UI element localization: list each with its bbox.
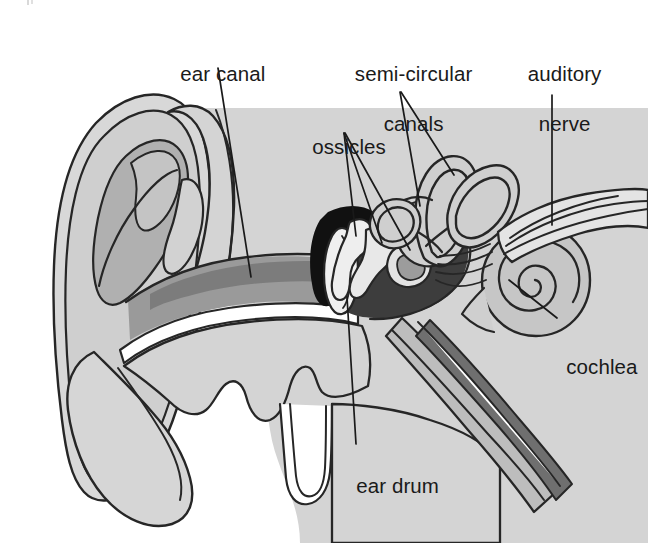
label-ear-drum-text: ear drum (356, 474, 439, 497)
label-ear-canal-text: ear canal (180, 62, 265, 85)
skin-flap-hanging (280, 404, 332, 504)
label-ossicles-text: ossicles (312, 135, 386, 158)
label-ear-canal: ear canal (157, 36, 265, 111)
label-auditory-nerve-line1: auditory (528, 62, 602, 85)
label-cochlea: cochlea (543, 329, 638, 404)
label-cochlea-text: cochlea (566, 355, 637, 378)
label-semi-circular-line1: semi-circular (355, 62, 472, 85)
label-semi-circular-line2: canals (384, 112, 444, 135)
label-ear-drum: ear drum (333, 448, 439, 523)
label-auditory-nerve: auditory nerve (494, 36, 612, 161)
scan-artifact (27, 0, 33, 5)
label-auditory-nerve-line2: nerve (539, 112, 591, 135)
label-ossicles: ossicles (289, 109, 386, 184)
ear-diagram: ear canal semi-circular canals auditory … (0, 0, 648, 543)
